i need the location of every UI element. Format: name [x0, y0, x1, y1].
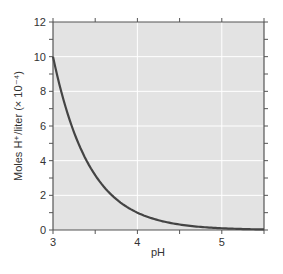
y-tick-labels: 024681012	[34, 16, 46, 236]
y-tick-label: 0	[40, 224, 46, 236]
x-tick-label: 4	[134, 236, 140, 248]
x-tick-label: 5	[219, 236, 225, 248]
x-tick-labels: 345	[50, 236, 225, 248]
ph-chart: 345 024681012 pH Moles H⁺/liter (× 10⁻⁴)	[0, 0, 283, 274]
y-tick-label: 12	[34, 16, 46, 28]
y-tick-label: 4	[40, 155, 46, 167]
y-tick-label: 8	[40, 85, 46, 97]
y-tick-label: 10	[34, 51, 46, 63]
y-tick-label: 2	[40, 189, 46, 201]
y-tick-label: 6	[40, 120, 46, 132]
x-axis-label: pH	[151, 246, 165, 258]
x-tick-label: 3	[50, 236, 56, 248]
y-axis-label: Moles H⁺/liter (× 10⁻⁴)	[12, 71, 24, 181]
